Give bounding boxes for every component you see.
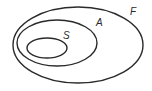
set-s-ellipse	[27, 38, 67, 58]
set-a-label: A	[95, 17, 103, 28]
set-s-label: S	[63, 30, 70, 41]
set-f-label: F	[130, 6, 137, 17]
set-f-ellipse	[13, 7, 143, 83]
nested-set-diagram: F A S	[0, 0, 152, 91]
